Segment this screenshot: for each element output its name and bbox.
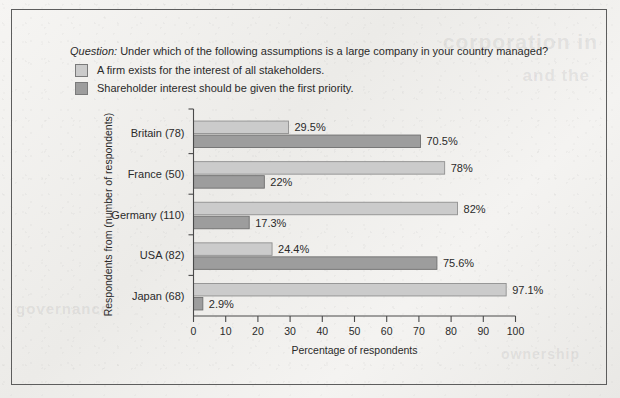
question-label: Question: xyxy=(70,45,117,57)
legend-swatch-shareholders xyxy=(75,82,88,95)
figure-header: Question: Under which of the following a… xyxy=(70,44,540,95)
legend-item-shareholders: Shareholder interest should be given the… xyxy=(70,81,540,95)
legend-item-stakeholders: A firm exists for the interest of all st… xyxy=(70,63,540,77)
legend-swatch-stakeholders xyxy=(75,64,88,77)
legend-label-shareholders: Shareholder interest should be given the… xyxy=(97,81,354,95)
question-text: Under which of the following assumptions… xyxy=(117,45,548,57)
legend-label-stakeholders: A firm exists for the interest of all st… xyxy=(97,63,324,77)
question-line: Question: Under which of the following a… xyxy=(70,44,540,59)
